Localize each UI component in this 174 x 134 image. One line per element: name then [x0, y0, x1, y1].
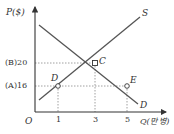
x-tick-1: 1 — [56, 116, 61, 124]
point-c-marker — [93, 61, 98, 66]
demand-curve — [39, 25, 138, 104]
point-e-label: E — [130, 76, 137, 85]
point-e-marker — [125, 84, 130, 89]
x-tick-5: 5 — [125, 116, 130, 124]
point-d-label: D — [51, 74, 58, 83]
supply-demand-diagram: P($) Q(만 병) O (B)20 (A)16 1 3 5 S D C D … — [0, 0, 174, 134]
demand-curve-label: D — [140, 101, 147, 110]
point-d-marker — [56, 84, 61, 89]
supply-curve-label: S — [142, 9, 148, 18]
origin-label: O — [25, 117, 32, 126]
price-b-label: (B)20 — [5, 59, 27, 67]
guide-lines — [35, 63, 127, 112]
y-axis-label: P($) — [6, 8, 25, 17]
point-c-label: C — [99, 57, 106, 66]
x-axis-label: Q(만 병) — [140, 118, 169, 126]
price-a-label: (A)16 — [5, 82, 27, 90]
diagram-canvas — [0, 0, 174, 134]
x-tick-3: 3 — [93, 116, 98, 124]
